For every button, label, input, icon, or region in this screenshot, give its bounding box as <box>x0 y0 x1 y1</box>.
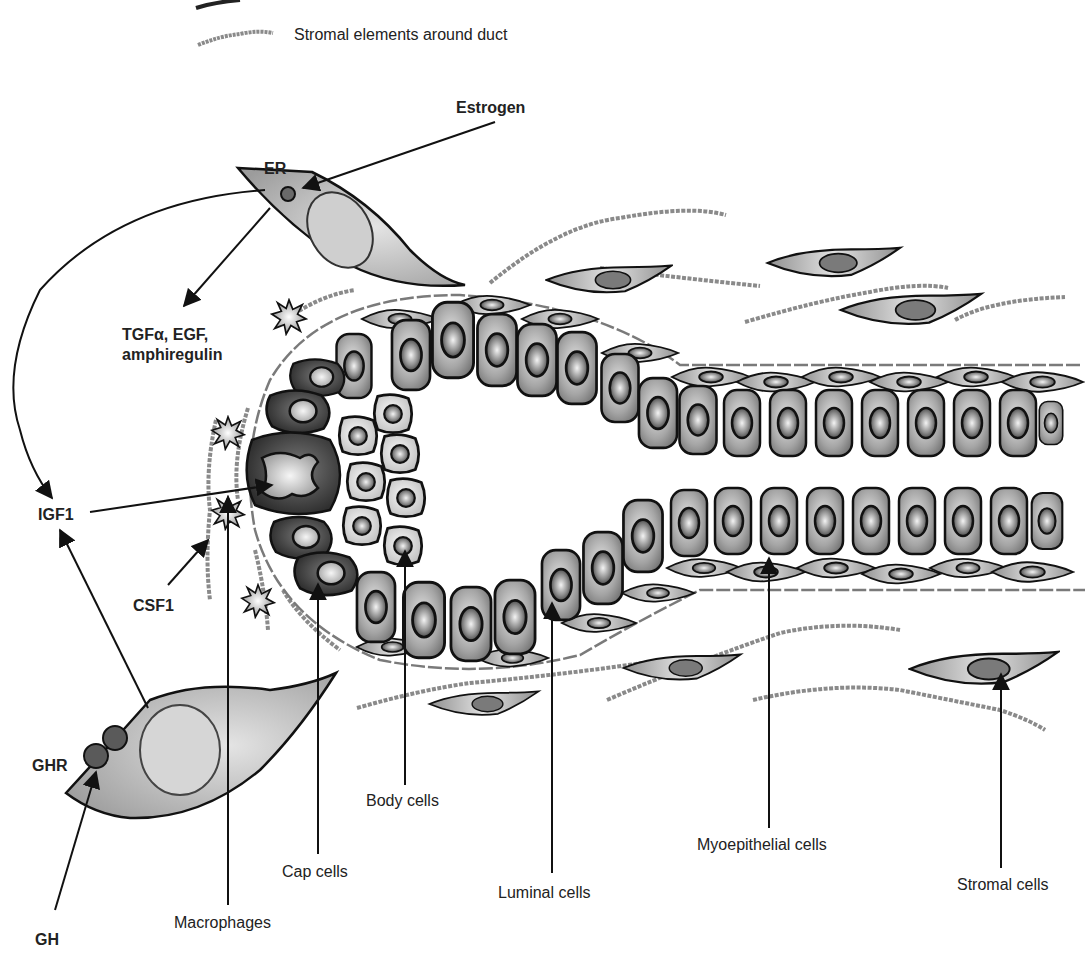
igf1-label: IGF1 <box>38 506 74 524</box>
er-to-igf1-arrow <box>13 190 265 498</box>
myoepithelial-cells-label: Myoepithelial cells <box>697 836 827 854</box>
legend-stroma-label: Stromal elements around duct <box>294 26 507 44</box>
er-label: ER <box>264 160 286 178</box>
gh-label: GH <box>35 931 59 949</box>
ghr-stromal-cell <box>66 673 336 818</box>
stromal-cells-label: Stromal cells <box>957 876 1049 894</box>
growth-factors-label-line1: TGFα, EGF, <box>122 326 208 344</box>
er-positive-stromal-cell <box>238 168 465 286</box>
igf1-to-cap-arrow <box>90 485 272 512</box>
legend-top-fragment <box>196 0 240 8</box>
luminal-cells-label: Luminal cells <box>498 884 590 902</box>
csf1-label: CSF1 <box>133 597 174 615</box>
legend-stroma-swatch-icon <box>198 32 273 45</box>
csf1-arrow <box>168 540 208 585</box>
ghr-receptor-icon <box>84 744 108 768</box>
ghr-to-igf1-arrow <box>60 530 148 708</box>
ghr-receptor-icon <box>103 726 127 750</box>
estrogen-receptor-icon <box>281 187 295 201</box>
estrogen-arrow <box>303 122 495 188</box>
terminal-end-bud-diagram <box>0 0 1091 957</box>
body-cells <box>339 395 424 565</box>
growth-factors-label-line2: amphiregulin <box>122 346 222 364</box>
cap-cells-label: Cap cells <box>282 863 348 881</box>
macrophages-label: Macrophages <box>174 914 271 932</box>
dividing-cap-cell <box>247 433 340 515</box>
body-cells-label: Body cells <box>366 792 439 810</box>
estrogen-label: Estrogen <box>456 99 525 117</box>
growth-factor-arrow <box>184 208 270 306</box>
ghr-label: GHR <box>32 757 68 775</box>
